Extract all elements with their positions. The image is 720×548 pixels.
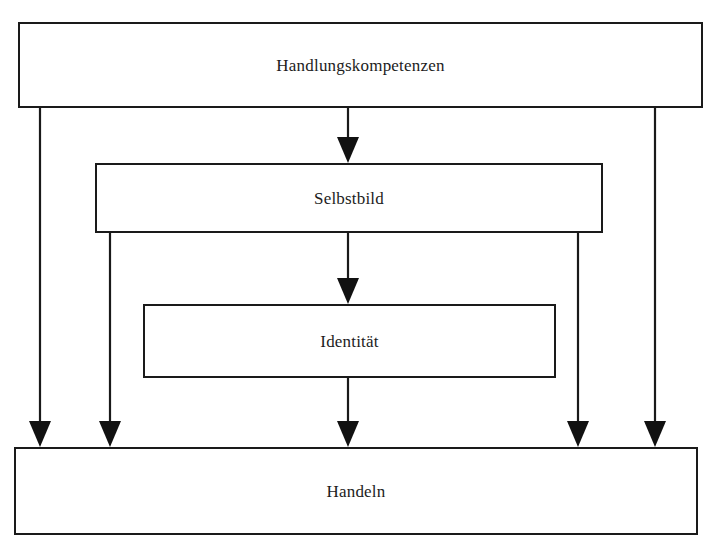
node-label-handlungskompetenzen: Handlungskompetenzen bbox=[276, 57, 444, 74]
arrowhead-down-icon bbox=[337, 421, 359, 447]
node-handeln[interactable]: Handeln bbox=[14, 447, 698, 535]
edge-selbstbild-to-handeln-right bbox=[567, 233, 589, 447]
edge-selbstbild-to-handeln-left bbox=[99, 233, 121, 447]
arrowhead-down-icon bbox=[99, 421, 121, 447]
edge-handlungskompetenzen-to-selbstbild bbox=[337, 108, 359, 163]
node-selbstbild[interactable]: Selbstbild bbox=[95, 163, 603, 233]
edge-identitaet-to-handeln bbox=[337, 378, 359, 447]
node-label-identitaet: Identität bbox=[320, 333, 378, 350]
node-label-selbstbild: Selbstbild bbox=[314, 190, 384, 207]
arrowhead-down-icon bbox=[337, 137, 359, 163]
node-label-handeln: Handeln bbox=[327, 483, 386, 500]
arrowhead-down-icon bbox=[567, 421, 589, 447]
node-handlungskompetenzen[interactable]: Handlungskompetenzen bbox=[18, 22, 703, 108]
node-identitaet[interactable]: Identität bbox=[143, 304, 556, 378]
edge-handlungskompetenzen-to-handeln-left bbox=[29, 108, 51, 447]
edge-selbstbild-to-identitaet bbox=[337, 233, 359, 304]
edge-handlungskompetenzen-to-handeln-right bbox=[644, 108, 666, 447]
arrowhead-down-icon bbox=[644, 421, 666, 447]
arrowhead-down-icon bbox=[29, 421, 51, 447]
diagram-canvas: HandlungskompetenzenSelbstbildIdentitätH… bbox=[0, 0, 720, 548]
arrowhead-down-icon bbox=[337, 278, 359, 304]
